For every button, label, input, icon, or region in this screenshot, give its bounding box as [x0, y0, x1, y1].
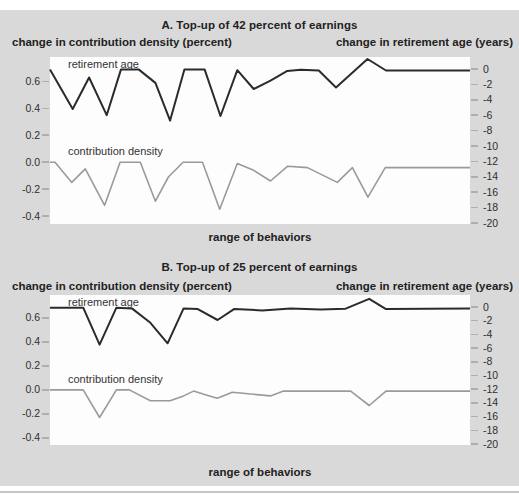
panel-a-lines — [50, 57, 470, 224]
panel-a-left-tick-mark — [42, 188, 49, 190]
panel-a-right-tick-mark — [471, 99, 478, 101]
panel-b-left-tick-mark — [42, 389, 49, 391]
panel-a-contribution-density-line — [50, 162, 470, 209]
panel-a-right-tick-mark — [471, 207, 478, 209]
panel-a-retirement-age-series-label: retirement age — [68, 58, 139, 70]
panel-a-right-tick-label: -20 — [483, 217, 498, 230]
panel-a-left-tick-label: 0.6 — [0, 75, 40, 88]
panel-b-title: B. Top-up of 25 percent of earnings — [0, 261, 519, 273]
panel-b-right-tick-mark — [471, 306, 478, 308]
panel-a-right-axis-label: change in retirement age (years) — [336, 36, 513, 48]
panel-b-left-tick-label: 0.0 — [0, 383, 40, 396]
panel-a-right-tick-mark — [471, 68, 478, 70]
panel-a-right-tick-mark — [471, 222, 478, 224]
panel-b-retirement-age-series-label: retirement age — [68, 296, 139, 308]
panel-b-left-tick-label: 0.4 — [0, 335, 40, 348]
panel-b-right-tick-mark — [471, 416, 478, 418]
panel-a-right-tick-label: 0 — [483, 63, 489, 76]
panel-b-right-tick-mark — [471, 430, 478, 432]
panel-a-right-tick-label: -18 — [483, 201, 498, 214]
panel-b-left-tick-label: 0.2 — [0, 359, 40, 372]
panel-a-left-tick-label: 0.4 — [0, 102, 40, 115]
panel-b-x-axis-label: range of behaviors — [50, 466, 470, 478]
panel-a-right-tick-label: -16 — [483, 186, 498, 199]
panel-b-right-tick-label: -4 — [483, 328, 492, 341]
panel-a-left-tick-mark — [42, 134, 49, 136]
panel-a-left-tick-label: -0.4 — [0, 210, 40, 223]
panel-a-right-tick-label: -14 — [483, 170, 498, 183]
panel-b-right-tick-label: -12 — [483, 383, 498, 396]
panel-b-right-tick-label: -18 — [483, 424, 498, 437]
panel-b-right-tick-label: -20 — [483, 438, 498, 451]
panel-a-right-tick-label: -2 — [483, 78, 492, 91]
panel-a-left-tick-mark — [42, 108, 49, 110]
panel-a-right-tick-label: -6 — [483, 109, 492, 122]
panel-a-title: A. Top-up of 42 percent of earnings — [0, 19, 519, 31]
panel-b-right-tick-mark — [471, 402, 478, 404]
panel-b-left-tick-mark — [42, 317, 49, 319]
panel-b-left-tick-mark — [42, 413, 49, 415]
panel-b-right-tick-label: -10 — [483, 369, 498, 382]
panel-a-right-tick-label: -4 — [483, 93, 492, 106]
panel-a-right-tick-label: -8 — [483, 124, 492, 137]
panel-b-right-tick-mark — [471, 443, 478, 445]
panel-a-left-tick-mark — [42, 161, 49, 163]
panel-b-right-tick-label: -16 — [483, 410, 498, 423]
panel-a-right-tick-mark — [471, 84, 478, 86]
panel-b-contribution-density-series-label: contribution density — [68, 373, 163, 385]
panel-a-right-tick-mark — [471, 114, 478, 116]
panel-a-right-tick-mark — [471, 161, 478, 163]
panel-b-right-tick-label: -8 — [483, 355, 492, 368]
panel-b-right-tick-mark — [471, 320, 478, 322]
panel-a-contribution-density-series-label: contribution density — [68, 145, 163, 157]
panel-b-left-tick-mark — [42, 365, 49, 367]
panel-a-right-tick-mark — [471, 176, 478, 178]
panel-a-left-tick-mark — [42, 81, 49, 83]
panel-b-right-tick-mark — [471, 361, 478, 363]
panel-a-right-tick-label: -12 — [483, 155, 498, 168]
page-rule — [0, 491, 519, 493]
panel-b-lines — [50, 295, 470, 445]
panel-a-right-tick-mark — [471, 191, 478, 193]
panel-b-right-tick-mark — [471, 334, 478, 336]
panel-b-right-tick-label: -2 — [483, 314, 492, 327]
panel-b-right-tick-mark — [471, 347, 478, 349]
panel-b-left-tick-mark — [42, 341, 49, 343]
panel-b-right-tick-label: -14 — [483, 396, 498, 409]
panel-b-left-tick-label: -0.4 — [0, 431, 40, 444]
panel-b-right-tick-label: -6 — [483, 342, 492, 355]
panel-b-right-tick-mark — [471, 375, 478, 377]
panel-a-left-tick-label: -0.2 — [0, 183, 40, 196]
panel-a-right-tick-label: -10 — [483, 140, 498, 153]
panel-b-contribution-density-line — [50, 390, 470, 418]
panel-a-left-tick-label: 0.2 — [0, 129, 40, 142]
panel-b-left-axis-label: change in contribution density (percent) — [12, 280, 232, 292]
panel-b-right-tick-mark — [471, 388, 478, 390]
panel-b-left-tick-label: 0.6 — [0, 311, 40, 324]
panel-b-right-axis-label: change in retirement age (years) — [336, 280, 513, 292]
panel-a-left-axis-label: change in contribution density (percent) — [12, 36, 232, 48]
panel-b-left-tick-label: -0.2 — [0, 407, 40, 420]
panel-a-left-tick-label: 0.0 — [0, 156, 40, 169]
panel-a-left-tick-mark — [42, 215, 49, 217]
panel-b-left-tick-mark — [42, 437, 49, 439]
panel-b-right-tick-label: 0 — [483, 301, 489, 314]
panel-a-right-tick-mark — [471, 145, 478, 147]
panel-a-x-axis-label: range of behaviors — [50, 231, 470, 243]
panel-a-right-tick-mark — [471, 130, 478, 132]
